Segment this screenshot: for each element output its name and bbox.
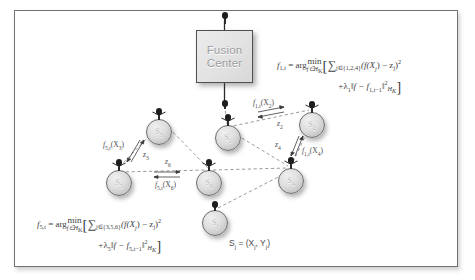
formula-sensor-1-line2: +λ1‖f − f1,t−1‖2HK] — [277, 80, 401, 95]
sensor-node-legend[interactable]: Sj — [202, 210, 228, 236]
sensor-node-s4[interactable]: S4 — [278, 168, 304, 194]
legend-node-definition: Sj = (Xj, Yj) — [229, 238, 270, 250]
sensor-node-s1[interactable]: S1 — [215, 125, 241, 151]
sensor-node-s5[interactable]: S5 — [106, 170, 132, 196]
edge-label-f1t-x2: f1,t(X2) — [253, 98, 274, 109]
edge-label-f5t-x3: f5,t(X3) — [103, 140, 124, 151]
figure-canvas: Fusion Center S3 S1 S2 S5 S6 S4 — [0, 0, 475, 280]
sensor-node-s4-label: S4 — [287, 176, 294, 187]
fusion-center-box[interactable]: Fusion Center — [196, 30, 253, 83]
formula-sensor-5-line1: f5,t = argminf∈HK[∑j∈{3,5,6}(f(Xj) − zj)… — [37, 216, 161, 233]
formula-sensor-1-line1: f1,t = argminf∈HK[∑j∈{1,2,4}(f(Xj) − zj)… — [277, 57, 401, 74]
sensor-node-s2[interactable]: S2 — [299, 112, 325, 138]
edge-label-f1t-x4: f1,t(X4) — [302, 146, 323, 157]
sensor-node-legend-label: Sj — [212, 218, 218, 229]
sensor-node-s1-label: S1 — [224, 133, 231, 144]
sensor-node-s5-label: S5 — [115, 178, 122, 189]
fusion-center-line2: Center — [207, 57, 243, 70]
sensor-node-s3-label: S3 — [155, 127, 162, 138]
edge-label-z2: z2 — [277, 119, 283, 130]
sensor-node-s2-label: S2 — [308, 120, 315, 131]
edge-label-f5t-x6: f5,t(X6) — [155, 180, 176, 191]
fusion-center-line1: Fusion — [207, 44, 243, 57]
formula-sensor-5-line2: +λ5‖f − f5,t−1‖2HK] — [37, 239, 161, 254]
sensor-node-s3[interactable]: S3 — [146, 119, 172, 145]
edge-label-z3: z3 — [143, 150, 149, 161]
edge-label-z6: z6 — [165, 157, 171, 168]
sensor-node-s6[interactable]: S6 — [196, 170, 222, 196]
sensor-node-s6-label: S6 — [205, 178, 212, 189]
edge-label-z4: z4 — [275, 140, 281, 151]
formula-sensor-5: f5,t = argminf∈HK[∑j∈{3,5,6}(f(Xj) − zj)… — [37, 216, 161, 254]
formula-sensor-1: f1,t = argminf∈HK[∑j∈{1,2,4}(f(Xj) − zj)… — [277, 57, 401, 95]
